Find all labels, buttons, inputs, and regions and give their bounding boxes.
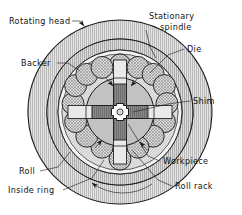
label-workpiece: Workpiece — [163, 156, 208, 166]
workpiece-center — [112, 104, 129, 121]
label-inside-ring: Inside ring — [8, 185, 54, 195]
label-rotating-head: Rotating head — [9, 16, 70, 26]
label-stationary-spindle-line2: spindle — [160, 22, 192, 32]
label-roll: Roll — [19, 166, 35, 176]
label-shim: Shim — [193, 96, 215, 106]
label-die: Die — [187, 44, 202, 54]
diagram-canvas: Rotating head Stationary spindle Die Bac… — [0, 0, 242, 215]
label-roll-rack: Roll rack — [175, 181, 213, 191]
label-stationary-spindle-line1: Stationary — [149, 11, 194, 21]
label-backer: Backer — [21, 58, 51, 68]
rotary-head-diagram: Rotating head Stationary spindle Die Bac… — [0, 0, 242, 215]
